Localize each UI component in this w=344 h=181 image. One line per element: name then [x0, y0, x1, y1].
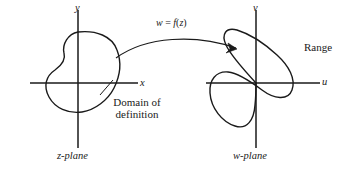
domain-region-label-line2: definition: [108, 108, 166, 120]
domain-region-label: Domain of definition: [108, 96, 166, 121]
z-plane-axes: [30, 10, 138, 148]
w-plane-y-axis-label: v: [253, 2, 258, 14]
mapping-arrow-curve: [116, 39, 236, 58]
w-plane-caption-text: w-plane: [233, 150, 267, 161]
mapping-function-label: w = f(z): [156, 17, 187, 28]
mapping-label-w: w: [156, 17, 163, 28]
z-plane-caption: z-plane: [57, 150, 88, 162]
w-plane-axes: [206, 10, 320, 148]
domain-region-label-line1: Domain of: [108, 96, 166, 108]
mapping-arrow: [116, 39, 237, 58]
w-plane-caption: w-plane: [233, 150, 267, 162]
figure-container: y x v u w = f(z) Domain of definition Ra…: [0, 0, 344, 181]
mapping-label-paren-close: ): [183, 17, 186, 28]
z-plane-y-axis-label: y: [75, 2, 80, 14]
z-plane-x-axis-label: x: [140, 77, 145, 89]
w-plane-x-axis-label: u: [322, 76, 327, 88]
z-plane-caption-text: z-plane: [57, 150, 88, 161]
range-region-label: Range: [304, 41, 332, 53]
